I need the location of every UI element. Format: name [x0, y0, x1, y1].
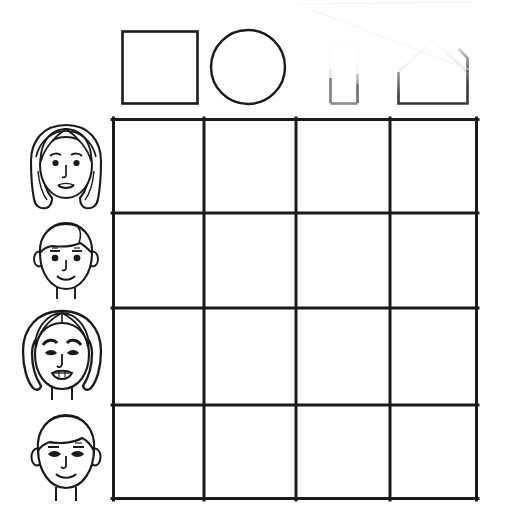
grid-cell-r2c3[interactable] — [296, 213, 390, 308]
worksheet-canvas — [0, 0, 508, 526]
grid-cell-r4c4[interactable] — [390, 405, 478, 500]
grid-cell-r2c1[interactable] — [112, 213, 204, 308]
grid-cell-r1c1[interactable] — [112, 118, 204, 213]
grid-cell-r1c3[interactable] — [296, 118, 390, 213]
grid-cell-r3c3[interactable] — [296, 308, 390, 405]
grid-cell-r4c3[interactable] — [296, 405, 390, 500]
matching-grid[interactable] — [0, 0, 508, 526]
grid-cell-r1c4[interactable] — [390, 118, 478, 213]
grid-cell-r2c2[interactable] — [204, 213, 296, 308]
grid-cell-r4c1[interactable] — [112, 405, 204, 500]
grid-cell-r3c4[interactable] — [390, 308, 478, 405]
grid-cell-r3c2[interactable] — [204, 308, 296, 405]
grid-cell-r3c1[interactable] — [112, 308, 204, 405]
grid-cell-r4c2[interactable] — [204, 405, 296, 500]
grid-cell-r1c2[interactable] — [204, 118, 296, 213]
grid-cell-r2c4[interactable] — [390, 213, 478, 308]
